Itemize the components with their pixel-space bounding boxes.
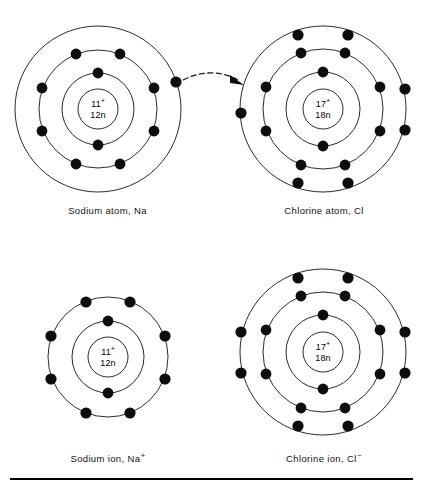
panel-chlorine-ion: 17+ 18n Chlorine ion, Cl	[224, 255, 424, 460]
electron	[261, 325, 272, 336]
caption-chlorine-ion: Chlorine ion, Cl−	[224, 453, 424, 464]
electron	[342, 177, 353, 188]
electron	[375, 369, 386, 380]
electron	[103, 388, 114, 399]
electron	[340, 403, 351, 414]
electron	[80, 296, 91, 307]
caption-text: Chlorine atom, Cl	[284, 205, 363, 216]
electron	[235, 326, 246, 337]
panel-chlorine-atom: 17+ 18n Chlorine atom, Cl	[224, 12, 424, 212]
caption-text: Sodium ion, Na	[70, 453, 140, 464]
caption-sodium-ion: Sodium ion, Na+	[28, 453, 188, 464]
electron	[103, 316, 114, 327]
electron	[318, 141, 329, 152]
electron	[235, 107, 246, 118]
electron	[261, 126, 272, 137]
caption-charge: +	[140, 451, 145, 460]
electron	[375, 126, 386, 137]
nucleus-neutron-label: 12n	[90, 110, 106, 120]
nucleus-neutron-label: 12n	[100, 358, 116, 368]
electron	[399, 367, 410, 378]
electron	[342, 272, 353, 283]
nucleus-charge-value: 17	[316, 99, 326, 109]
chlorine-atom-diagram: 17+ 18n	[224, 12, 424, 212]
electron	[296, 160, 307, 171]
nucleus-charge-sign: +	[111, 345, 115, 352]
nucleus-charge-value: 11	[91, 99, 101, 109]
nucleus-circle	[78, 89, 118, 129]
electron	[318, 310, 329, 321]
nucleus-charge-value: 17	[316, 342, 326, 352]
electron	[340, 48, 351, 59]
electron	[399, 83, 410, 94]
electron	[37, 83, 48, 94]
electron	[149, 126, 160, 137]
electron	[93, 140, 104, 151]
nucleus-neutron-label: 18n	[315, 110, 331, 120]
electron	[159, 330, 170, 341]
electron	[292, 177, 303, 188]
caption-text: Sodium atom, Na	[68, 205, 147, 216]
electron	[292, 272, 303, 283]
nucleus-charge-sign: +	[326, 97, 330, 104]
atomic-structure-figure: 11+ 12n Sodium atom, Na	[0, 0, 429, 491]
caption-charge: −	[357, 451, 362, 460]
panel-sodium-atom: 11+ 12n Sodium atom, Na	[6, 12, 209, 212]
electron	[375, 325, 386, 336]
electron	[340, 291, 351, 302]
electron	[235, 367, 246, 378]
electron	[318, 384, 329, 395]
nucleus-neutron-label: 18n	[315, 353, 331, 363]
electron	[296, 291, 307, 302]
electron	[342, 29, 353, 40]
panel-sodium-ion: 11+ 12n Sodium ion, Na+	[28, 270, 188, 460]
caption-chlorine-atom: Chlorine atom, Cl	[224, 205, 424, 216]
nucleus-charge-sign: +	[101, 97, 105, 104]
electron	[375, 82, 386, 93]
electron	[296, 403, 307, 414]
electron	[261, 369, 272, 380]
bottom-divider	[10, 478, 413, 480]
electron	[71, 49, 82, 60]
electron	[340, 160, 351, 171]
electron	[342, 420, 353, 431]
electron	[261, 82, 272, 93]
electron	[292, 420, 303, 431]
nucleus-circle	[88, 337, 128, 377]
sodium-ion-diagram: 11+ 12n	[28, 270, 188, 445]
electron	[93, 68, 104, 79]
electron	[115, 159, 126, 170]
electron	[399, 124, 410, 135]
electron	[71, 159, 82, 170]
caption-sodium-atom: Sodium atom, Na	[6, 205, 209, 216]
electron	[45, 330, 56, 341]
electron	[399, 326, 410, 337]
electron	[124, 296, 135, 307]
electron	[37, 126, 48, 137]
electron	[124, 407, 135, 418]
nucleus-charge-sign: +	[326, 340, 330, 347]
electron	[159, 373, 170, 384]
electron	[115, 49, 126, 60]
nucleus-charge-value: 11	[101, 347, 111, 357]
electron	[149, 83, 160, 94]
nucleus-circle	[303, 89, 343, 129]
electron	[45, 373, 56, 384]
nucleus-circle	[303, 332, 343, 372]
electron	[318, 67, 329, 78]
electron	[80, 407, 91, 418]
electron	[292, 29, 303, 40]
chlorine-ion-diagram: 17+ 18n	[224, 255, 424, 445]
electron	[296, 48, 307, 59]
caption-text: Chlorine ion, Cl	[286, 453, 357, 464]
sodium-atom-diagram: 11+ 12n	[6, 12, 209, 212]
